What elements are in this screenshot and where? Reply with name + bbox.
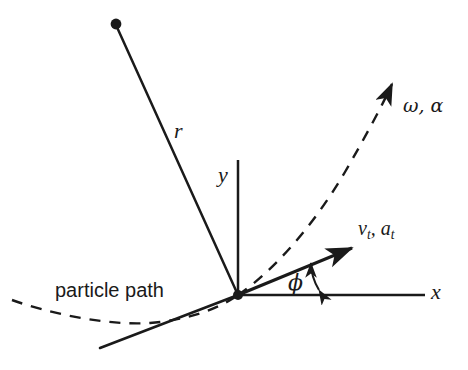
diagram-vector-layer (0, 0, 468, 370)
tangential-acceleration-subscript: t (391, 227, 395, 242)
diagram-canvas: r y x ω, α ϕ particle path vt, at (0, 0, 468, 370)
pivot-dot (111, 19, 122, 30)
y-axis-label: y (218, 164, 228, 186)
x-axis-label: x (431, 281, 441, 303)
tangential-acceleration-symbol: a (381, 217, 391, 239)
tangential-vector-label: vt, at (358, 218, 394, 241)
angular-velocity-acceleration-label: ω, α (403, 96, 443, 115)
tangent-line-extension (100, 295, 238, 348)
origin-dot (233, 290, 243, 300)
tangential-label-separator: , (371, 217, 381, 239)
angle-indicator-arc-arrow (311, 263, 319, 290)
radius-label: r (174, 120, 183, 142)
tangential-velocity-symbol: v (358, 217, 367, 239)
radius-line (116, 25, 238, 295)
particle-path-label: particle path (55, 280, 164, 300)
angle-phi-label: ϕ (288, 272, 303, 294)
